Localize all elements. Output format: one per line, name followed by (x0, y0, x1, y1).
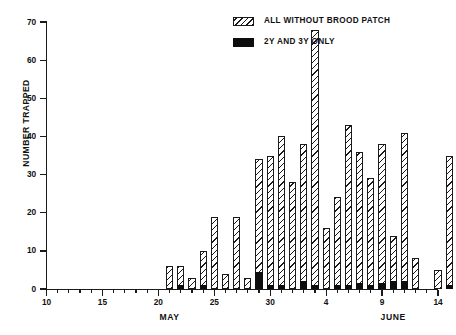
bar-black-day-32 (401, 281, 408, 289)
bar-total-day-36 (446, 156, 453, 290)
bar-total-day-26 (334, 197, 341, 289)
bar-total-day-22 (289, 182, 296, 289)
bar-black-day-12 (177, 285, 184, 289)
bar-total-day-23 (300, 144, 307, 289)
bar-total-day-16 (222, 274, 229, 289)
bar-total-day-17 (233, 217, 240, 289)
bar-total-day-24 (311, 30, 318, 289)
bar-total-day-30 (378, 144, 385, 289)
bar-total-day-33 (412, 258, 419, 289)
bar-total-day-20 (267, 156, 274, 290)
bar-total-day-11 (166, 266, 173, 289)
bar-black-day-27 (345, 285, 352, 289)
bar-black-day-29 (367, 285, 374, 289)
bar-total-day-18 (244, 278, 251, 289)
bar-total-day-28 (356, 152, 363, 289)
bar-black-day-14 (200, 285, 207, 289)
bar-black-day-36 (446, 285, 453, 289)
bar-total-day-32 (401, 133, 408, 289)
bar-black-day-21 (278, 285, 285, 289)
legend-swatch-solid-icon (233, 38, 254, 47)
bar-black-day-30 (378, 283, 385, 289)
bar-total-day-29 (367, 178, 374, 289)
bar-total-day-35 (434, 270, 441, 289)
bar-total-day-27 (345, 125, 352, 289)
legend-label-all-without-brood-patch: ALL WITHOUT BROOD PATCH (264, 16, 390, 25)
legend-label-2y-and-3y-only: 2Y AND 3Y ONLY (264, 37, 335, 46)
bar-total-day-14 (200, 251, 207, 289)
bar-total-day-21 (278, 136, 285, 289)
bar-total-day-15 (211, 217, 218, 289)
chart-figure: 010203040506070 10152025304914 NUMBER TR… (0, 0, 456, 335)
bar-black-day-28 (356, 283, 363, 289)
bar-black-day-31 (390, 281, 397, 289)
bar-black-day-24 (311, 285, 318, 289)
bar-black-day-20 (267, 285, 274, 289)
bar-black-day-19 (255, 272, 262, 289)
bar-black-day-26 (334, 285, 341, 289)
bar-series-group (0, 0, 456, 335)
legend-swatch-hatched-icon (233, 17, 254, 26)
bar-black-day-23 (300, 281, 307, 289)
bar-total-day-25 (323, 228, 330, 289)
bar-total-day-19 (255, 159, 262, 289)
bar-total-day-13 (188, 278, 195, 289)
